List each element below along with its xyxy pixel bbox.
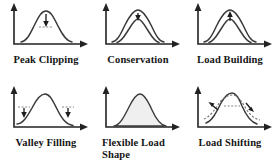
y-axis-arrowhead (103, 86, 110, 94)
y-axis-arrowhead (195, 3, 202, 11)
left-down-arrow (21, 108, 27, 118)
panel-caption: Valley Filling (16, 137, 77, 149)
panel-load-building: Load Building (184, 0, 276, 75)
right-down-arrow (65, 108, 71, 118)
down-arrow (43, 14, 49, 27)
flexible-load-shape-plot (92, 83, 184, 135)
panel-peak-clipping: Peak Clipping (0, 0, 92, 75)
load-building-plot (184, 0, 276, 52)
load-curve (206, 93, 257, 124)
shaded-load-curve (114, 94, 166, 126)
axes (11, 3, 88, 47)
reduced-load-curve (117, 19, 159, 43)
panel-caption: Conservation (107, 54, 168, 66)
original-load-curve (209, 19, 251, 43)
y-axis-arrowhead (103, 3, 110, 11)
load-shifting-plot (184, 83, 276, 135)
panel-caption: Load Building (197, 54, 263, 66)
panel-caption: Peak Clipping (13, 54, 78, 66)
panel-conservation: Conservation (92, 0, 184, 75)
x-axis-arrowhead (264, 41, 272, 48)
load-curve (17, 94, 73, 126)
valley-filling-plot (0, 83, 92, 135)
x-axis-arrowhead (172, 41, 180, 48)
panel-caption: Flexible Load Shape (102, 137, 176, 161)
y-axis-arrowhead (11, 3, 18, 11)
y-axis-arrowhead (11, 86, 18, 94)
load-shape-figure: Peak Clipping Conservation (0, 0, 276, 168)
x-axis-arrowhead (80, 124, 88, 131)
panel-caption: Load Shifting (199, 137, 262, 149)
peak-clipping-plot (0, 0, 92, 52)
panel-valley-filling: Valley Filling (0, 75, 92, 168)
x-axis-arrowhead (80, 41, 88, 48)
left-up-arrow (209, 102, 219, 110)
x-axis-arrowhead (264, 124, 272, 131)
panel-load-shifting: Load Shifting (184, 75, 276, 168)
panel-grid: Peak Clipping Conservation (0, 0, 276, 168)
panel-flexible-load-shape: Flexible Load Shape (92, 75, 184, 168)
conservation-plot (92, 0, 184, 52)
x-axis-arrowhead (172, 124, 180, 131)
y-axis-arrowhead (195, 86, 202, 94)
axes (11, 86, 88, 130)
